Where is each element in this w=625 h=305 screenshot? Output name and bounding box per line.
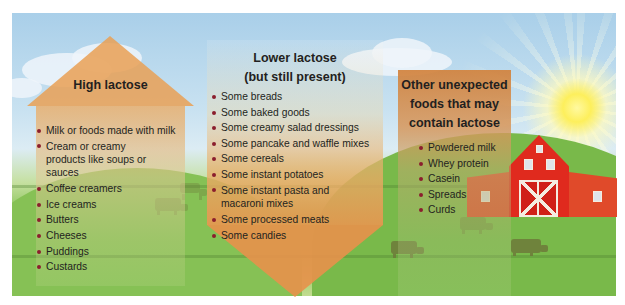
- list-item: Some candies: [211, 228, 391, 244]
- high-lactose-title: High lactose: [27, 76, 194, 95]
- list-item: Casein: [418, 171, 513, 187]
- barn-window: [593, 191, 602, 202]
- lower-lactose-title-line2: (but still present): [207, 68, 383, 87]
- list-item: Whey protein: [418, 156, 513, 172]
- list-item: Some creamy salad dressings: [211, 120, 391, 136]
- barn-window: [546, 159, 555, 170]
- list-item: Spreads: [418, 187, 513, 203]
- list-item: Some breads: [211, 89, 391, 105]
- list-item: Some baked goods: [211, 105, 391, 121]
- barn-window: [536, 145, 543, 153]
- high-lactose-list: Milk or foods made with milk Cream or cr…: [36, 123, 196, 275]
- other-foods-title-line2: foods that may: [398, 95, 511, 114]
- lower-lactose-list: Some breads Some baked goods Some creamy…: [211, 89, 391, 243]
- list-item: Curds: [418, 202, 513, 218]
- list-item: Custards: [36, 259, 196, 275]
- list-item: Ice creams: [36, 197, 196, 213]
- list-item: Coffee creamers: [36, 181, 196, 197]
- list-item: Some instant pasta and macaroni mixes: [211, 183, 341, 210]
- cow-icon: [511, 239, 541, 253]
- other-foods-list: Powdered milk Whey protein Casein Spread…: [418, 140, 513, 218]
- barn-door: [519, 180, 558, 217]
- list-item: Milk or foods made with milk: [36, 123, 196, 139]
- list-item: Some instant potatoes: [211, 167, 391, 183]
- list-item: Cream or creamy products like soups or s…: [36, 139, 166, 180]
- list-item: Butters: [36, 212, 196, 228]
- other-foods-title: Other unexpected foods that may contain …: [398, 76, 511, 133]
- list-item: Some processed meats: [211, 212, 391, 228]
- list-item: Puddings: [36, 244, 196, 260]
- lower-lactose-title: Lower lactose (but still present): [207, 49, 383, 87]
- house-roof: [27, 36, 194, 106]
- list-item: Some pancake and waffle mixes: [211, 136, 391, 152]
- other-foods-title-line1: Other unexpected: [398, 76, 511, 95]
- list-item: Some cereals: [211, 151, 391, 167]
- lower-lactose-title-line1: Lower lactose: [207, 49, 383, 68]
- list-item: Cheeses: [36, 228, 196, 244]
- barn-window: [524, 159, 533, 170]
- list-item: Powdered milk: [418, 140, 513, 156]
- other-foods-title-line3: contain lactose: [398, 114, 511, 133]
